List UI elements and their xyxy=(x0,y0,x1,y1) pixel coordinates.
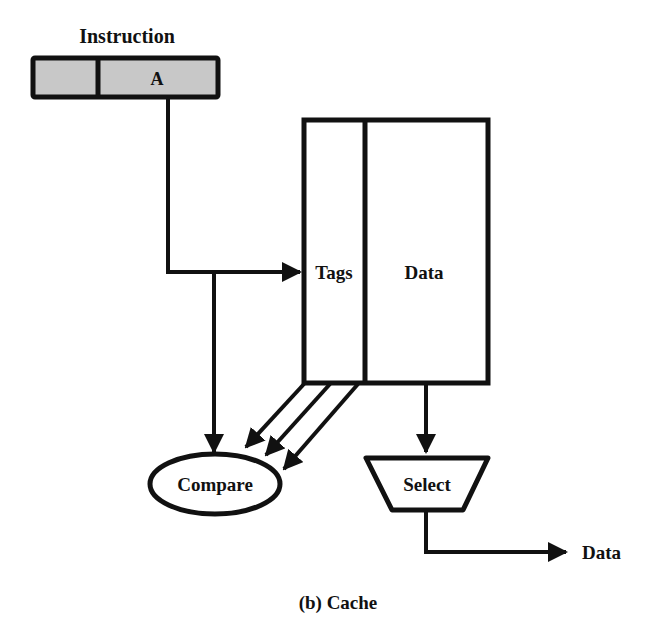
instruction-label: Instruction xyxy=(79,25,175,47)
caption: (b) Cache xyxy=(299,592,378,614)
output-data-label: Data xyxy=(582,542,622,563)
tag-wires xyxy=(246,384,358,469)
address-field-label: A xyxy=(151,69,164,89)
tags-label: Tags xyxy=(315,262,352,283)
address-wire xyxy=(168,97,300,272)
compare-label: Compare xyxy=(177,474,253,495)
select-label: Select xyxy=(403,474,451,495)
output-wire xyxy=(426,510,566,552)
cache-array xyxy=(304,120,488,383)
instruction-register xyxy=(33,58,218,97)
cache-diagram: Instruction A Tags Data Compare Select D… xyxy=(0,0,662,636)
data-column-label: Data xyxy=(404,262,444,283)
